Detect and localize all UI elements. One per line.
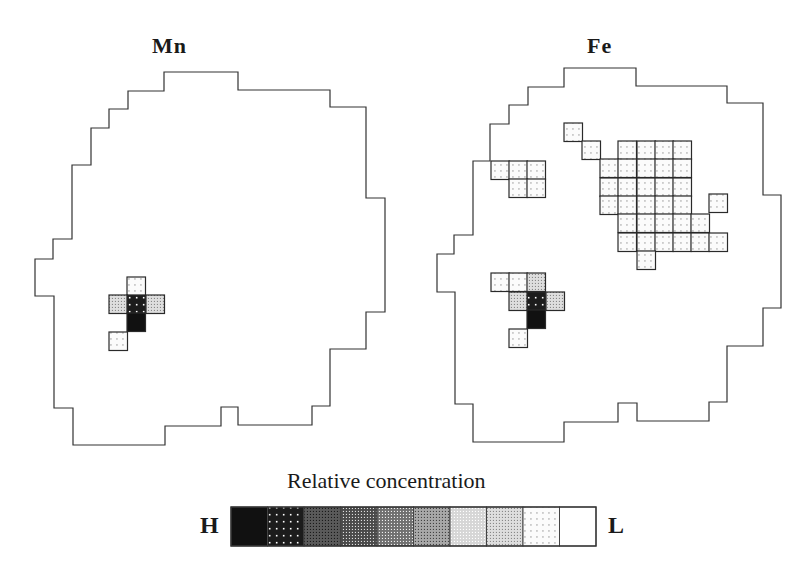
concentration-cell [564, 123, 583, 142]
concentration-cell [546, 292, 565, 311]
concentration-cell [509, 329, 528, 348]
concentration-cell [146, 295, 165, 314]
concentration-cell [600, 159, 619, 178]
concentration-cell [673, 159, 692, 178]
sample-outline [35, 72, 385, 445]
concentration-cell [709, 233, 728, 252]
concentration-cell [637, 159, 656, 178]
concentration-cell [637, 233, 656, 252]
concentration-cell [618, 196, 637, 215]
legend-swatch [268, 507, 305, 546]
mn-map [35, 72, 385, 445]
concentration-cell [691, 233, 710, 252]
concentration-cell [655, 141, 674, 160]
fe-map [437, 68, 781, 442]
concentration-cell [655, 214, 674, 233]
concentration-cell [709, 194, 728, 213]
concentration-cell [673, 196, 692, 215]
concentration-cell [673, 141, 692, 160]
concentration-cell [127, 295, 146, 314]
legend-swatch [377, 507, 414, 546]
concentration-cell [637, 196, 656, 215]
concentration-cell [673, 178, 692, 197]
concentration-cell [637, 178, 656, 197]
concentration-cell [509, 292, 528, 311]
legend-swatch [341, 507, 378, 546]
element-concentration-maps: Mn Fe Relative concentration H L [0, 0, 808, 573]
concentration-cell [655, 178, 674, 197]
concentration-cell [491, 161, 510, 180]
concentration-cell [691, 214, 710, 233]
concentration-cell [618, 178, 637, 197]
legend-swatch [231, 507, 268, 546]
legend-swatch [487, 507, 524, 546]
concentration-cell [527, 310, 546, 329]
concentration-cell [600, 178, 619, 197]
concentration-cell [509, 179, 528, 198]
concentration-cell [618, 159, 637, 178]
legend-title: Relative concentration [287, 468, 486, 494]
concentration-cell [509, 273, 528, 292]
concentration-cell [618, 214, 637, 233]
concentration-cell [127, 313, 146, 332]
concentration-cell [673, 214, 692, 233]
concentration-cell [618, 233, 637, 252]
legend-swatch [414, 507, 451, 546]
concentration-cell [527, 161, 546, 180]
concentration-cell [655, 233, 674, 252]
concentration-cell [491, 273, 510, 292]
sample-outline [437, 68, 781, 442]
concentration-cell [637, 251, 656, 270]
concentration-cell [655, 196, 674, 215]
concentration-cell [637, 214, 656, 233]
concentration-cell [655, 159, 674, 178]
concentration-cell [582, 141, 601, 160]
legend-high-label: H [200, 512, 219, 539]
concentration-cell [600, 196, 619, 215]
concentration-cell [127, 277, 146, 296]
concentration-cell [637, 141, 656, 160]
concentration-cell [109, 332, 128, 351]
concentration-cell [673, 233, 692, 252]
legend-bar [231, 507, 596, 546]
concentration-cell [527, 273, 546, 292]
legend-swatch [304, 507, 341, 546]
legend-swatch [523, 507, 560, 546]
concentration-cell [618, 141, 637, 160]
fe-map-title: Fe [587, 33, 612, 59]
concentration-cell [527, 179, 546, 198]
concentration-cell [509, 161, 528, 180]
legend-low-label: L [608, 512, 624, 539]
mn-map-title: Mn [152, 33, 187, 59]
legend-swatch [450, 507, 487, 546]
concentration-cell [109, 295, 128, 314]
concentration-cell [527, 292, 546, 311]
legend-swatch [560, 507, 597, 546]
